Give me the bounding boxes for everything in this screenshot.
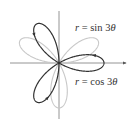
cos-curve-label: r = cos 3θ [75, 77, 117, 88]
direction-arrows [32, 33, 96, 101]
label-equation: = cos 3 [79, 76, 112, 87]
polar-rose-figure [0, 0, 134, 126]
label-theta: θ [110, 22, 115, 33]
label-theta: θ [112, 76, 117, 87]
label-equation: = sin 3 [79, 22, 110, 33]
sin-curve-label: r = sin 3θ [75, 23, 116, 34]
